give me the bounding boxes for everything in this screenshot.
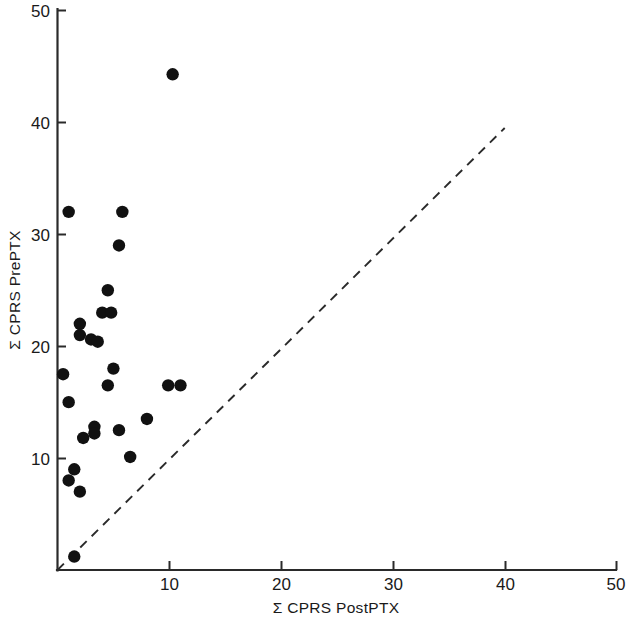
y-axis-title: Σ CPRS PrePTX <box>6 230 23 350</box>
y-tick-label-50: 50 <box>31 2 50 21</box>
x-tick-label-20: 20 <box>272 575 291 594</box>
data-point <box>105 306 117 318</box>
data-point <box>113 239 125 251</box>
data-point <box>102 284 114 296</box>
data-point <box>107 362 119 374</box>
data-point <box>124 451 136 463</box>
y-tick-labels: 50 40 30 20 10 <box>31 2 50 469</box>
x-tick-label-50: 50 <box>607 575 626 594</box>
x-tick-label-10: 10 <box>160 575 179 594</box>
data-point <box>62 396 74 408</box>
data-point <box>113 424 125 436</box>
y-tick-label-40: 40 <box>31 114 50 133</box>
data-point <box>116 206 128 218</box>
data-point <box>74 329 86 341</box>
x-tick-marks <box>170 561 617 570</box>
plot-canvas: 50 40 30 20 10 10 20 30 40 50 Σ CPRS Pos… <box>0 0 627 618</box>
data-point <box>88 427 100 439</box>
data-point <box>166 68 178 80</box>
y-tick-label-20: 20 <box>31 338 50 357</box>
data-point <box>74 485 86 497</box>
data-point <box>57 368 69 380</box>
scatter-points-layer <box>57 68 187 563</box>
x-tick-label-40: 40 <box>496 575 515 594</box>
data-point <box>62 474 74 486</box>
data-point <box>68 550 80 562</box>
data-point <box>102 379 114 391</box>
scatter-plot-figure: 50 40 30 20 10 10 20 30 40 50 Σ CPRS Pos… <box>0 0 627 618</box>
identity-reference-line <box>58 128 505 570</box>
data-point <box>92 336 104 348</box>
data-point <box>68 463 80 475</box>
data-point <box>77 432 89 444</box>
data-point <box>62 206 74 218</box>
x-tick-label-30: 30 <box>384 575 403 594</box>
data-point <box>162 379 174 391</box>
y-tick-label-30: 30 <box>31 226 50 245</box>
data-point <box>74 318 86 330</box>
y-tick-label-10: 10 <box>31 450 50 469</box>
axes-group <box>57 9 616 571</box>
data-point <box>174 379 186 391</box>
data-point <box>141 413 153 425</box>
x-axis-title: Σ CPRS PostPTX <box>273 599 400 616</box>
x-tick-labels: 10 20 30 40 50 <box>160 575 625 594</box>
